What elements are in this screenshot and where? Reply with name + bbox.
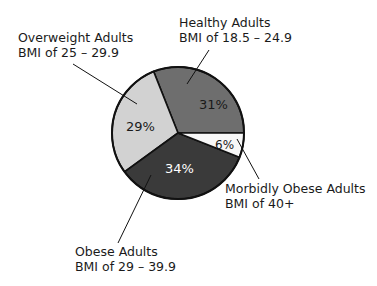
label-healthy: Healthy Adults BMI of 18.5 – 24.9 bbox=[179, 15, 292, 45]
label-morbid: Morbidly Obese Adults BMI of 40+ bbox=[225, 181, 365, 211]
label-obese: Obese Adults BMI of 29 – 39.9 bbox=[75, 244, 176, 274]
leader-morbid bbox=[237, 139, 259, 179]
leader-obese bbox=[118, 175, 151, 243]
label-overweight: Overweight Adults BMI of 25 – 29.9 bbox=[18, 30, 133, 60]
pct-morbid: 6% bbox=[215, 138, 234, 152]
pct-healthy: 31% bbox=[199, 97, 228, 112]
leader-overweight bbox=[73, 64, 137, 104]
pct-obese: 34% bbox=[165, 161, 194, 176]
pct-overweight: 29% bbox=[126, 119, 155, 134]
